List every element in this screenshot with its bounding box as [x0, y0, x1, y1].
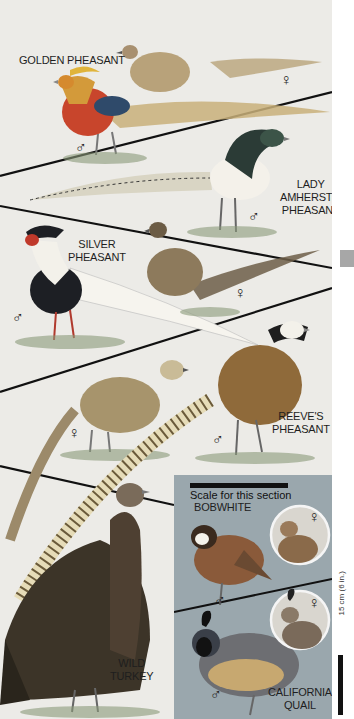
reeves-pheasant-label: REEVE'S PHEASANT: [272, 410, 330, 436]
label-line: PHEASANT: [280, 204, 332, 217]
label-line: SILVER: [68, 238, 126, 251]
lady-amherst-male-symbol: ♂: [248, 209, 260, 225]
bobwhite-male-illustration: [191, 525, 272, 605]
silver-pheasant-label: SILVER PHEASANT: [68, 238, 126, 264]
bobwhite-label: BOBWHITE: [194, 501, 251, 514]
label-line: QUAIL: [268, 699, 332, 712]
illustration-plate: GOLDEN PHEASANT ♂ ♀ LADY AMHERST'S PHEAS…: [0, 0, 332, 719]
quail-scale-panel: Scale for this section: [174, 475, 332, 719]
golden-pheasant-female-symbol: ♀: [280, 72, 292, 88]
vertical-scale-bar: [338, 655, 343, 715]
golden-pheasant-label: GOLDEN PHEASANT: [19, 54, 125, 67]
silver-pheasant-female-symbol: ♀: [234, 285, 246, 301]
golden-pheasant-male-symbol: ♂: [75, 140, 87, 156]
lady-amherst-label: LADY AMHERST'S PHEASANT: [280, 178, 332, 217]
label-line: LADY: [280, 178, 332, 191]
reeves-pheasant-female-illustration: [10, 360, 189, 540]
silver-pheasant-male-symbol: ♂: [12, 310, 24, 326]
label-line: PHEASANT: [272, 423, 330, 436]
california-quail-male-symbol: ♂: [210, 687, 222, 703]
bobwhite-female-symbol: ♀: [308, 509, 320, 525]
label-line: WILD: [110, 657, 153, 670]
bobwhite-male-symbol: ♂: [214, 593, 226, 609]
label-line: TURKEY: [110, 670, 153, 683]
label-line: CALIFORNIA: [268, 686, 332, 699]
scale-measure-label: 15 cm (6 in.): [337, 586, 346, 616]
label-line: PHEASANT: [68, 251, 126, 264]
reeves-pheasant-female-symbol: ♀: [68, 425, 80, 441]
reeves-pheasant-male-symbol: ♂: [212, 432, 224, 448]
label-line: REEVE'S: [272, 410, 330, 423]
label-line: AMHERST'S: [280, 191, 332, 204]
page-edge-tab: [340, 250, 354, 267]
california-quail-female-symbol: ♀: [308, 595, 320, 611]
wild-turkey-label: WILD TURKEY: [110, 657, 153, 683]
california-quail-label: CALIFORNIA QUAIL: [268, 686, 332, 712]
